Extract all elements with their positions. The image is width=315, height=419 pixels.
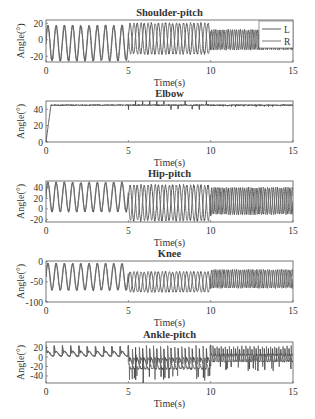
legend-label-L: L [284,25,290,35]
series-line-R [46,263,293,292]
y-tick-label: 0 [38,257,43,267]
y-tick-label: 0 [38,35,43,45]
y-tick-label: 20 [34,121,44,131]
x-tick-label: 0 [44,66,49,76]
subplot-title: Knee [158,248,182,259]
subplot-elbow: Elbow05101540200Time(s)Angle(°) [15,88,298,169]
plot-lines [46,182,293,222]
subplot-title: Ankle-pitch [143,329,196,340]
x-tick-label: 15 [288,306,298,316]
y-tick-label: 0 [38,138,43,148]
subplot-ankle-pitch: Ankle-pitch051015200-20-40Time(s)Angle(°… [15,329,298,410]
x-axis-label: Time(s) [154,398,185,410]
subplot-title: Elbow [155,88,184,99]
x-tick-label: 0 [44,226,49,236]
subplot-hip-pitch: Hip-pitch05101540200-20Time(s)Angle(°) [15,168,298,249]
y-tick-label: -100 [26,298,44,308]
y-tick-label: 40 [34,183,44,193]
subplot-title: Shoulder-pitch [136,7,203,18]
x-tick-label: 0 [44,146,49,156]
subplot-title: Hip-pitch [148,168,191,179]
x-tick-label: 5 [126,66,131,76]
y-tick-label: -20 [30,52,43,62]
x-tick-label: 5 [126,306,131,316]
plot-lines [46,22,293,61]
plot-lines [46,101,293,142]
y-axis-label: Angle(°) [15,104,27,139]
x-tick-label: 5 [126,146,131,156]
plot-lines [46,263,293,292]
x-tick-label: 10 [206,226,216,236]
y-tick-label: 20 [34,19,44,29]
y-axis-label: Angle(°) [15,264,27,299]
x-tick-label: 15 [288,387,298,397]
series-line-R [46,22,293,61]
x-tick-label: 10 [206,66,216,76]
y-tick-label: 40 [34,105,44,115]
legend-label-R: R [284,37,291,47]
y-tick-label: 0 [38,204,43,214]
x-tick-label: 10 [206,387,216,397]
figure: Shoulder-pitch051015200-20Time(s)Angle(°… [0,0,315,419]
axes-box [46,101,293,142]
y-axis-label: Angle(°) [15,345,27,380]
x-tick-label: 15 [288,226,298,236]
y-tick-label: -50 [30,277,43,287]
subplot-shoulder-pitch: Shoulder-pitch051015200-20Time(s)Angle(°… [15,7,298,89]
y-tick-label: -20 [30,215,43,225]
x-tick-label: 0 [44,387,49,397]
y-axis-label: Angle(°) [15,23,27,58]
subplot-knee: Knee0510150-50-100Time(s)Angle(°) [15,248,298,329]
x-tick-label: 5 [126,226,131,236]
y-tick-label: -40 [30,371,43,381]
x-tick-label: 10 [206,306,216,316]
x-axis-label: Time(s) [154,317,185,329]
x-tick-label: 5 [126,387,131,397]
legend: LR [259,21,293,48]
x-tick-label: 0 [44,306,49,316]
x-tick-label: 15 [288,146,298,156]
x-tick-label: 10 [206,146,216,156]
series-line-L [46,101,293,142]
y-tick-label: 20 [34,194,44,204]
plot-lines [46,345,293,383]
y-axis-label: Angle(°) [15,184,27,219]
x-tick-label: 15 [288,66,298,76]
